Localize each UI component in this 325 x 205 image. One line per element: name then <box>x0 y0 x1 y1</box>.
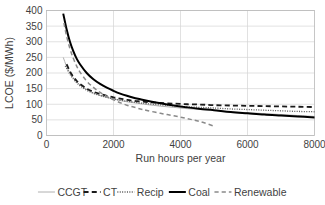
x-tick-label: 6000 <box>236 139 259 150</box>
data-series-group <box>63 14 314 127</box>
y-tick-label: 100 <box>26 99 43 110</box>
y-tick-label: 200 <box>26 67 43 78</box>
legend-label-recip: Recip <box>137 186 164 198</box>
chart-canvas: 050100150200250300350400 020004000600080… <box>0 0 325 205</box>
x-tick-label: 0 <box>44 139 50 150</box>
y-tick-label: 50 <box>31 114 43 125</box>
y-tick-label: 0 <box>37 130 43 141</box>
legend-label-renewable: Renewable <box>234 186 287 198</box>
y-tick-label: 250 <box>26 52 43 63</box>
y-axis-title: LCOE ($/MWh) <box>3 37 15 109</box>
x-axis-tick-labels: 02000400060008000 <box>44 139 325 150</box>
legend-label-ct: CT <box>103 186 118 198</box>
legend-label-ccgt: CCGT <box>57 186 87 198</box>
y-tick-label: 350 <box>26 21 43 32</box>
y-axis-tick-labels: 050100150200250300350400 <box>26 5 43 141</box>
legend-label-coal: Coal <box>188 186 210 198</box>
series-line-renewable <box>64 23 214 126</box>
y-tick-label: 400 <box>26 5 43 16</box>
y-tick-label: 150 <box>26 83 43 94</box>
lcoe-line-chart: 050100150200250300350400 020004000600080… <box>0 0 325 205</box>
chart-legend: CCGTCTRecipCoalRenewable <box>38 186 287 198</box>
x-tick-label: 8000 <box>303 139 325 150</box>
x-axis-title: Run hours per year <box>136 152 226 164</box>
x-tick-label: 2000 <box>102 139 125 150</box>
y-tick-label: 300 <box>26 36 43 47</box>
x-tick-label: 4000 <box>169 139 192 150</box>
series-line-coal <box>63 14 314 118</box>
